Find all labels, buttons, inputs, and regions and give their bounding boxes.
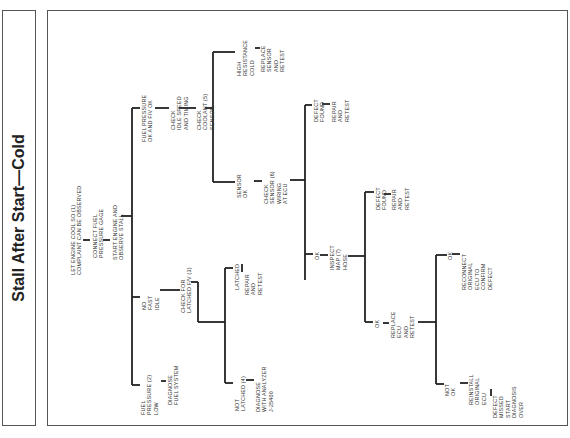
node-sensor-ok: SENSOR OK	[236, 174, 249, 198]
node-replace-ecu: REPLACE ECU AND RETEST	[390, 311, 416, 338]
node-map-ok: OK	[374, 320, 380, 328]
node-replace-sensor: REPLACE SENSOR AND RETEST	[260, 45, 286, 72]
node-fuel-pressure-low: FUEL PRESSURE (2) LOW	[140, 375, 159, 415]
node-wiring-ok: OK	[314, 252, 320, 260]
node-ecu-not-ok: NOT OK	[444, 384, 457, 396]
node-defect-missed: DEFECT MISSED START DIAGNOSIS OVER	[492, 386, 524, 418]
node-latched: LATCHED	[234, 264, 240, 290]
node-fuel-pressure-ok: FUEL PRESSURE OK AND F/V OK	[141, 95, 154, 142]
node-check-latched-fv: CHECK FOR LATCHED F/V (3)	[180, 267, 193, 313]
node-observe-stall: START ENGINE AND OBSERVE STALL	[112, 205, 125, 260]
node-map-repair: REPAIR AND RETEST	[391, 188, 410, 210]
node-reinstall-ecu: REINSTALL ORIGINAL ECU	[468, 374, 487, 405]
node-map-defect-found: DEFECT FOUND	[375, 187, 388, 210]
node-connect-gage: CONNECT FUEL PRESSURE GAGE	[92, 209, 105, 258]
node-no-fast-idle: NO FAST IDLE	[141, 296, 160, 310]
node-latched-repair: REPAIR AND RETEST	[244, 273, 263, 295]
node-start: LET ENGINE COOL SO (1) COMPLAINT CAN BE …	[70, 186, 83, 275]
node-reconnect-ecu: RECONNECT ORIGINAL ECU TO CONFIRM DEFECT	[461, 254, 493, 290]
node-ecu-ok: OK	[447, 252, 453, 260]
node-inspect-map-hose: INSPECT MAP (7) HOSE	[329, 245, 348, 270]
node-high-resistance: HIGH RESISTANCE COLD	[236, 40, 255, 76]
node-wiring-defect-found: DEFECT FOUND	[313, 99, 326, 122]
node-not-latched: NOT LATCHED (4)	[234, 376, 247, 411]
node-diagnose-analyzer: DIAGNOSE WITH ANALYZER J-25400	[255, 366, 274, 412]
node-diagnose-fuel-system: DIAGNOSE FUEL SYSTEM	[167, 366, 180, 405]
node-check-idle-timing: CHECK IDLE SPEED AND TIMING	[170, 96, 189, 130]
node-check-sensor-wiring: CHECK SENSOR (6) WIRING AT ECU	[263, 171, 289, 204]
node-wiring-repair: REPAIR AND RETEST	[331, 100, 350, 122]
node-check-coolant-sensor: CHECK COOLANT (5) SENSOR	[196, 94, 215, 130]
